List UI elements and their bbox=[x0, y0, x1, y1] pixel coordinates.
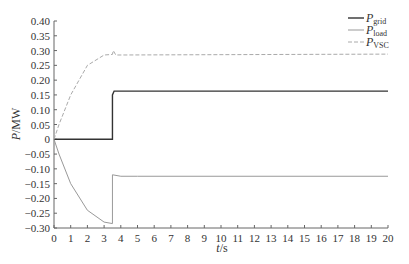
y-tick-label: 0.15 bbox=[31, 89, 51, 101]
y-tick-label: −0.20 bbox=[25, 192, 51, 204]
x-tick-label: 8 bbox=[185, 232, 191, 244]
x-tick-label: 18 bbox=[349, 232, 361, 244]
x-tick-label: 0 bbox=[51, 232, 57, 244]
y-tick-label: −0.15 bbox=[25, 178, 51, 190]
x-tick-label: 13 bbox=[266, 232, 278, 244]
y-tick-label: −0.25 bbox=[25, 207, 51, 219]
x-tick-label: 11 bbox=[232, 232, 243, 244]
series-line-p-load bbox=[54, 139, 388, 223]
x-tick-label: 6 bbox=[151, 232, 157, 244]
x-tick-label: 1 bbox=[68, 232, 74, 244]
x-tick-label: 20 bbox=[383, 232, 395, 244]
y-tick-label: 0.20 bbox=[31, 74, 51, 86]
x-tick-label: 4 bbox=[118, 232, 124, 244]
y-axis-label: P/MW bbox=[9, 107, 23, 141]
x-tick-label: 3 bbox=[101, 232, 107, 244]
x-tick-label: 19 bbox=[366, 232, 378, 244]
series-lines bbox=[54, 51, 388, 224]
y-tick-label: −0.10 bbox=[25, 163, 51, 175]
y-tick-label: 0.35 bbox=[31, 30, 51, 42]
x-tick-label: 17 bbox=[332, 232, 344, 244]
axes: 012345678910111213141516171819200.400.35… bbox=[25, 15, 394, 244]
y-tick-label: −0.30 bbox=[25, 222, 51, 234]
y-tick-label: −0.05 bbox=[25, 148, 51, 160]
y-tick-label: 0.40 bbox=[31, 15, 51, 27]
y-tick-label: 0 bbox=[45, 133, 51, 145]
y-tick-label: 0.10 bbox=[31, 104, 51, 116]
x-tick-label: 12 bbox=[249, 232, 260, 244]
x-tick-label: 16 bbox=[316, 232, 328, 244]
x-tick-label: 7 bbox=[168, 232, 174, 244]
legend: PgridPloadPVSC bbox=[348, 11, 389, 50]
x-tick-label: 5 bbox=[135, 232, 141, 244]
x-tick-label: 14 bbox=[282, 232, 294, 244]
line-chart: 012345678910111213141516171819200.400.35… bbox=[0, 0, 409, 264]
y-tick-label: 0.05 bbox=[31, 119, 51, 131]
series-line-p-vsc bbox=[54, 51, 388, 140]
y-tick-label: 0.30 bbox=[31, 45, 51, 57]
x-tick-label: 2 bbox=[85, 232, 91, 244]
x-tick-label: 9 bbox=[202, 232, 208, 244]
y-tick-label: 0.25 bbox=[31, 59, 51, 71]
x-tick-label: 15 bbox=[299, 232, 311, 244]
series-line-p-grid bbox=[54, 91, 388, 139]
x-axis-label: t/s bbox=[216, 241, 228, 255]
